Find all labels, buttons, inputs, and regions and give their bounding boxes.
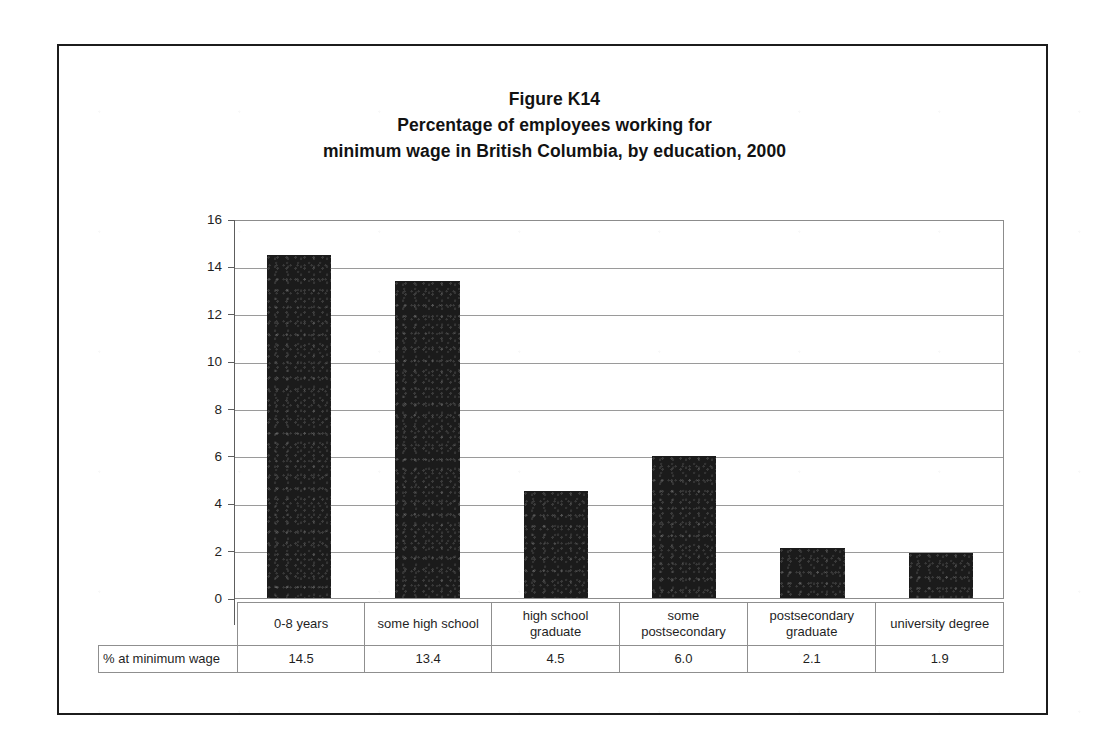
bars-layer — [235, 220, 1004, 598]
table-category-text: some — [620, 608, 747, 624]
table-value-cell: 14.5 — [238, 646, 365, 673]
table-category-text: postsecondary — [748, 608, 875, 624]
table-category-text: university degree — [876, 616, 1003, 632]
y-axis-tick-labels: 0246810121416 — [177, 220, 222, 599]
y-axis-tick-label: 4 — [182, 497, 222, 511]
table-value-cell: 2.1 — [748, 646, 876, 673]
table-category-cell: somepostsecondary — [619, 603, 747, 646]
table-value-cell: 4.5 — [492, 646, 620, 673]
bar — [524, 491, 588, 598]
table-category-text: 0-8 years — [238, 616, 364, 632]
y-axis-tick — [228, 504, 234, 505]
y-axis-tick — [228, 314, 234, 315]
y-axis-tick — [228, 220, 234, 221]
y-axis-tick-label: 10 — [182, 355, 222, 369]
bar — [652, 456, 716, 598]
y-axis-tick-label: 6 — [182, 450, 222, 464]
bar — [909, 553, 973, 598]
y-axis-tick — [228, 599, 234, 600]
y-axis-tick-label: 14 — [182, 260, 222, 274]
table-category-cell: high schoolgraduate — [492, 603, 620, 646]
table-category-text: high school — [492, 608, 619, 624]
bar-slot — [235, 220, 363, 598]
y-axis-tick — [228, 362, 234, 363]
table-category-cell: 0-8 years — [238, 603, 365, 646]
bar — [267, 255, 331, 598]
table-category-cell: postsecondarygraduate — [748, 603, 876, 646]
table-value-cell: 1.9 — [876, 646, 1004, 673]
table-category-text: postsecondary — [620, 624, 747, 640]
table-value-cell: 6.0 — [619, 646, 747, 673]
table-row-categories: 0-8 yearssome high schoolhigh schoolgrad… — [99, 603, 1004, 646]
y-axis-tick — [228, 551, 234, 552]
y-axis-tick-label: 2 — [182, 545, 222, 559]
y-axis-tick-label: 16 — [182, 213, 222, 227]
table-row-values: % at minimum wage 14.513.44.56.02.11.9 — [99, 646, 1004, 673]
y-axis-tick-label: 12 — [182, 308, 222, 322]
bar-slot — [620, 220, 748, 598]
bar-slot — [492, 220, 620, 598]
bar-slot — [363, 220, 491, 598]
bar — [780, 548, 844, 598]
table-category-text: some high school — [365, 616, 491, 632]
y-axis-tick — [228, 267, 234, 268]
y-axis-tick — [228, 409, 234, 410]
table-category-text: graduate — [748, 624, 875, 640]
bar — [395, 281, 459, 598]
figure-page-frame: Figure K14 Percentage of employees worki… — [57, 44, 1048, 715]
bar-slot — [877, 220, 1005, 598]
y-axis-tick — [228, 456, 234, 457]
table-category-text: graduate — [492, 624, 619, 640]
table-row-header: % at minimum wage — [99, 646, 238, 673]
bar-slot — [748, 220, 876, 598]
y-axis-tick-label: 8 — [182, 403, 222, 417]
data-table: 0-8 yearssome high schoolhigh schoolgrad… — [98, 602, 1004, 673]
table-value-cell: 13.4 — [365, 646, 492, 673]
table-category-cell: university degree — [876, 603, 1004, 646]
table-corner-blank — [99, 603, 238, 646]
table-category-cell: some high school — [365, 603, 492, 646]
